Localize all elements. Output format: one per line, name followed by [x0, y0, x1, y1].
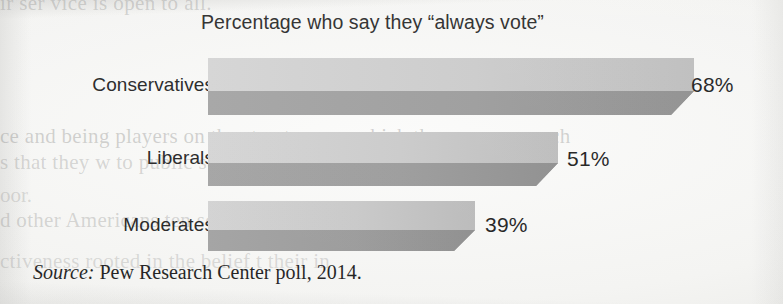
background-bleed-text: oor. [0, 183, 32, 208]
source-label: Source: [33, 261, 94, 283]
bar-conservatives [208, 58, 694, 115]
scanned-chart-page: ir ser vice is open to all. ce and being… [0, 0, 783, 304]
bar-liberals [208, 132, 558, 186]
value-label-liberals: 51% [567, 147, 610, 171]
category-label-moderates: Moderates [123, 214, 214, 236]
bar-moderates [208, 201, 475, 251]
category-label-liberals: Liberals [147, 147, 214, 169]
category-label-conservatives: Conservatives [92, 74, 214, 96]
source-text: Pew Research Center poll, 2014. [94, 261, 361, 283]
value-label-moderates: 39% [485, 213, 528, 237]
value-label-conservatives: 68% [691, 73, 734, 97]
source-note: Source: Pew Research Center poll, 2014. [33, 261, 362, 284]
chart-title: Percentage who say they “always vote” [0, 11, 783, 34]
